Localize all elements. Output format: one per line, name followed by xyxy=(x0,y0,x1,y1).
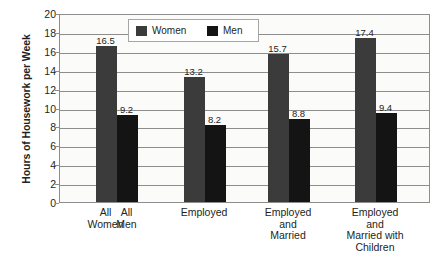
y-tick-label: 20 xyxy=(34,8,56,20)
y-axis-title: Hours of Housework per Week xyxy=(20,9,32,209)
bar-women-group-0 xyxy=(96,46,117,202)
bar-value-label: 9.2 xyxy=(120,104,133,115)
bar-value-label: 16.5 xyxy=(96,35,115,46)
bar-value-label: 9.4 xyxy=(379,102,392,113)
bar-value-label: 17.4 xyxy=(355,27,374,38)
bar-women-group-2 xyxy=(268,54,289,202)
y-tick-label: 2 xyxy=(34,178,56,190)
legend-entry-women: Women xyxy=(136,25,186,36)
y-tick-label: 14 xyxy=(34,65,56,77)
bar-men-group-2 xyxy=(289,119,310,202)
bar-women-group-1 xyxy=(184,77,205,202)
bar-men-group-0 xyxy=(117,115,138,202)
bar-value-label: 8.8 xyxy=(292,108,305,119)
y-tick-label: 4 xyxy=(34,159,56,171)
y-tick-label: 16 xyxy=(34,46,56,58)
legend-label-men: Men xyxy=(223,25,242,36)
legend-label-women: Women xyxy=(152,25,186,36)
y-tick-label: 10 xyxy=(34,103,56,115)
chart-legend: Women Men xyxy=(128,19,259,42)
y-tick-label: 12 xyxy=(34,84,56,96)
y-tick-label: 6 xyxy=(34,140,56,152)
bar-value-label: 13.2 xyxy=(184,66,203,77)
bar-women-group-3 xyxy=(355,38,376,202)
legend-entry-men: Men xyxy=(207,25,242,36)
y-tick-label: 0 xyxy=(34,197,56,209)
bar-value-label: 8.2 xyxy=(208,114,221,125)
bar-value-label: 15.7 xyxy=(268,43,287,54)
x-category-label-2: Employed xyxy=(181,207,228,219)
bar-men-group-1 xyxy=(205,125,226,202)
y-tick-mark xyxy=(55,203,59,204)
legend-swatch-women-icon xyxy=(136,26,147,36)
grouped-bar-chart: Hours of Housework per Week 201816141210… xyxy=(0,0,442,259)
x-category-label-3: Employed and Married xyxy=(265,207,312,242)
y-tick-label: 18 xyxy=(34,27,56,39)
x-category-label-4: Employed and Married with Children xyxy=(342,207,409,253)
bar-men-group-3 xyxy=(376,113,397,202)
x-category-label-1: All Men xyxy=(116,207,136,230)
legend-swatch-men-icon xyxy=(207,26,218,36)
y-tick-label: 8 xyxy=(34,121,56,133)
